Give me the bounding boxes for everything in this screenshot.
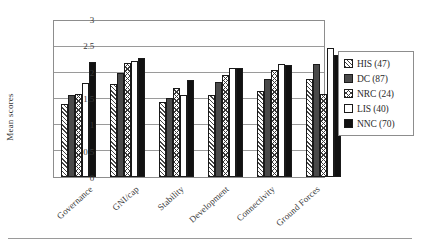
bar-groups xyxy=(54,21,324,177)
bar-dc-ground-forces[interactable] xyxy=(313,64,320,177)
bar-dc-gni-cap[interactable] xyxy=(117,73,124,177)
bar-lis-development[interactable] xyxy=(229,68,236,177)
bar-nnc-development[interactable] xyxy=(236,68,243,177)
y-axis-title-text: Mean scores xyxy=(5,93,15,140)
bar-dc-stability[interactable] xyxy=(166,98,173,177)
legend-swatch-nnc-icon xyxy=(344,119,353,128)
bar-lis-connectivity[interactable] xyxy=(278,64,285,177)
legend-swatch-his-icon xyxy=(344,59,353,68)
x-tick-label: Stability xyxy=(156,184,186,212)
y-tick-label: 2 xyxy=(68,68,94,78)
bar-his-ground-forces[interactable] xyxy=(306,79,313,177)
bar-lis-ground-forces[interactable] xyxy=(327,48,334,177)
bar-nrc-development[interactable] xyxy=(222,75,229,177)
bar-nrc-gni-cap[interactable] xyxy=(124,63,131,177)
legend-swatch-lis-icon xyxy=(344,104,353,113)
x-tick-label: GNI/cap xyxy=(110,184,140,213)
x-tick-label: Governance xyxy=(55,184,95,221)
legend-swatch-nrc-icon xyxy=(344,89,353,98)
bar-his-governance[interactable] xyxy=(61,104,68,177)
legend-item-dc[interactable]: DC (87) xyxy=(344,71,409,86)
bar-dc-development[interactable] xyxy=(215,82,222,177)
legend-item-his[interactable]: HIS (47) xyxy=(344,56,409,71)
bar-his-connectivity[interactable] xyxy=(257,91,264,177)
bar-group xyxy=(250,21,299,177)
bar-his-development[interactable] xyxy=(208,95,215,177)
legend-label: DC (87) xyxy=(357,74,388,84)
y-tick-label: 3 xyxy=(68,15,94,25)
x-axis-labels: GovernanceGNI/capStabilityDevelopmentCon… xyxy=(53,178,325,240)
bar-lis-stability[interactable] xyxy=(180,95,187,177)
legend-label: NRC (24) xyxy=(357,89,394,99)
bar-his-gni-cap[interactable] xyxy=(110,84,117,177)
bar-lis-gni-cap[interactable] xyxy=(131,61,138,177)
legend-item-nnc[interactable]: NNC (70) xyxy=(344,116,409,131)
bar-nrc-ground-forces[interactable] xyxy=(320,94,327,177)
bar-nnc-governance[interactable] xyxy=(89,62,96,177)
y-tick-label: 1.5 xyxy=(68,94,94,104)
legend-swatch-dc-icon xyxy=(344,74,353,83)
footer-rule xyxy=(8,238,412,239)
y-tick-label: 2.5 xyxy=(68,41,94,51)
legend-label: HIS (47) xyxy=(357,59,390,69)
y-tick-label: 1 xyxy=(68,120,94,130)
bar-nnc-connectivity[interactable] xyxy=(285,65,292,177)
bar-dc-connectivity[interactable] xyxy=(264,79,271,177)
legend-label: LIS (40) xyxy=(357,104,389,114)
legend-label: NNC (70) xyxy=(357,119,394,129)
bar-nnc-stability[interactable] xyxy=(187,80,194,177)
y-tick-label: 0.5 xyxy=(68,147,94,157)
legend-item-lis[interactable]: LIS (40) xyxy=(344,101,409,116)
legend-item-nrc[interactable]: NRC (24) xyxy=(344,86,409,101)
bar-nrc-connectivity[interactable] xyxy=(271,70,278,177)
x-tick-label: Connectivity xyxy=(234,184,276,223)
legend: HIS (47)DC (87)NRC (24)LIS (40)NNC (70) xyxy=(338,51,414,136)
bar-nrc-governance[interactable] xyxy=(75,94,82,177)
bar-nnc-gni-cap[interactable] xyxy=(138,58,145,177)
bar-dc-governance[interactable] xyxy=(68,95,75,177)
y-axis-title: Mean scores xyxy=(2,62,18,172)
bar-group xyxy=(201,21,250,177)
bar-his-stability[interactable] xyxy=(159,102,166,177)
x-tick-label: Development xyxy=(188,184,232,225)
bar-nrc-stability[interactable] xyxy=(173,88,180,177)
bar-group xyxy=(103,21,152,177)
x-tick-label: Ground Forces xyxy=(274,184,322,228)
bar-group xyxy=(152,21,201,177)
bar-chart-figure: Mean scores 00.511.522.53 GovernanceGNI/… xyxy=(0,0,424,250)
